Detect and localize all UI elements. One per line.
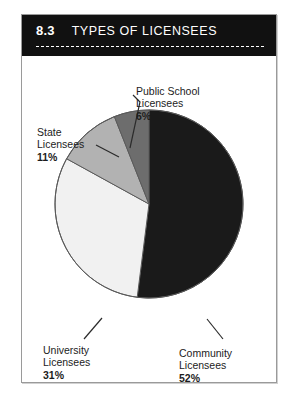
pie-chart: Public School Licensees 6% State License… (22, 56, 276, 384)
figure-header: 8.3 TYPES OF LICENSEES (22, 15, 276, 56)
pie-label-state-line1: State (37, 126, 84, 138)
pie-label-community-value: 52% (179, 372, 232, 384)
pie-label-university: University Licensees 31% (43, 344, 90, 382)
leader-line-university (84, 318, 102, 339)
leader-line-community (207, 319, 223, 339)
pie-label-community-line2: Licensees (179, 359, 232, 371)
pie-label-public-school: Public School Licensees 6% (136, 85, 200, 123)
pie-label-state-line2: Licensees (37, 138, 84, 150)
pie-label-public-school-value: 6% (136, 110, 200, 122)
figure-header-row: 8.3 TYPES OF LICENSEES (36, 23, 217, 38)
pie-slice-community[interactable] (137, 110, 243, 298)
figure-frame: 8.3 TYPES OF LICENSEES (21, 14, 277, 383)
pie-label-university-line1: University (43, 344, 90, 356)
pie-label-community-line1: Community (179, 347, 232, 359)
pie-label-university-value: 31% (43, 369, 90, 381)
pie-label-public-school-line1: Public School (136, 85, 200, 97)
pie-label-public-school-line2: Licensees (136, 97, 200, 109)
pie-label-university-line2: Licensees (43, 356, 90, 368)
figure-number: 8.3 (36, 23, 55, 38)
header-dashed-rule (36, 46, 264, 47)
figure-title: TYPES OF LICENSEES (72, 24, 217, 38)
pie-label-community: Community Licensees 52% (179, 347, 232, 385)
pie-label-state-value: 11% (37, 151, 84, 163)
pie-label-state: State Licensees 11% (37, 126, 84, 164)
